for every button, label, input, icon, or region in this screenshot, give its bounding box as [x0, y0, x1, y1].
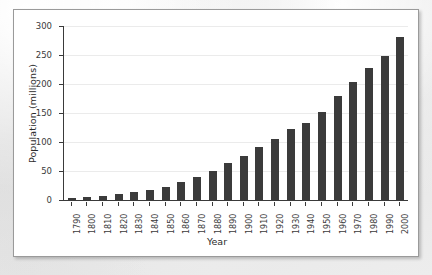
x-tick-label: 1790 — [74, 214, 82, 234]
x-tick-label: 1970 — [355, 214, 363, 234]
bar — [302, 123, 310, 200]
x-tick-mark — [149, 202, 150, 206]
bar — [177, 182, 185, 200]
x-tick-mark — [118, 202, 119, 206]
bar — [224, 163, 232, 200]
y-tick-label: 200 — [6, 80, 52, 89]
y-tick-mark — [59, 171, 64, 172]
x-tick-label: 1810 — [105, 214, 113, 234]
x-axis-ticks: 1790180018101820183018401850186018701880… — [63, 202, 407, 242]
bar — [255, 147, 263, 200]
x-tick-mark — [227, 202, 228, 206]
x-tick-mark — [165, 202, 166, 206]
bar — [68, 198, 76, 200]
gridline — [64, 55, 408, 56]
bar — [146, 190, 154, 200]
chart-figure: Population (millions) Year 0501001502002… — [14, 10, 420, 258]
x-tick-mark — [86, 202, 87, 206]
bar — [99, 196, 107, 200]
x-tick-mark — [399, 202, 400, 206]
y-tick-label: 50 — [6, 167, 52, 176]
x-tick-mark — [180, 202, 181, 206]
y-tick-label: 0 — [6, 196, 52, 205]
x-tick-mark — [133, 202, 134, 206]
y-tick-label: 150 — [6, 109, 52, 118]
y-tick-mark — [59, 142, 64, 143]
plot-area: 050100150200250300 — [63, 26, 408, 201]
y-tick-mark — [59, 26, 64, 27]
x-tick-label: 1800 — [89, 214, 97, 234]
x-tick-mark — [71, 202, 72, 206]
bar — [240, 156, 248, 200]
x-tick-mark — [368, 202, 369, 206]
bar — [365, 68, 373, 200]
x-tick-label: 1850 — [168, 214, 176, 234]
bar — [349, 82, 357, 200]
x-tick-mark — [102, 202, 103, 206]
bar — [162, 187, 170, 200]
x-tick-label: 1920 — [277, 214, 285, 234]
bar — [318, 112, 326, 200]
x-tick-label: 1950 — [324, 214, 332, 234]
x-tick-mark — [243, 202, 244, 206]
x-tick-mark — [196, 202, 197, 206]
chart-card: Population (millions) Year 0501001502002… — [13, 9, 419, 257]
gridline — [64, 26, 408, 27]
x-tick-mark — [305, 202, 306, 206]
x-tick-mark — [384, 202, 385, 206]
x-tick-mark — [352, 202, 353, 206]
bar — [334, 96, 342, 200]
y-tick-mark — [59, 113, 64, 114]
bar — [83, 197, 91, 200]
x-tick-label: 1980 — [371, 214, 379, 234]
bar — [396, 37, 404, 200]
x-tick-label: 1940 — [308, 214, 316, 234]
x-tick-label: 1860 — [183, 214, 191, 234]
x-tick-mark — [321, 202, 322, 206]
x-tick-label: 1960 — [340, 214, 348, 234]
bar — [130, 192, 138, 200]
bar — [193, 177, 201, 200]
x-tick-mark — [290, 202, 291, 206]
x-tick-label: 1890 — [230, 214, 238, 234]
x-tick-mark — [337, 202, 338, 206]
x-tick-label: 1830 — [136, 214, 144, 234]
y-tick-label: 300 — [6, 22, 52, 31]
bar — [271, 139, 279, 200]
x-tick-label: 1870 — [199, 214, 207, 234]
y-tick-mark — [59, 84, 64, 85]
bar — [209, 171, 217, 200]
x-tick-label: 1990 — [387, 214, 395, 234]
y-tick-label: 250 — [6, 51, 52, 60]
y-tick-mark — [59, 55, 64, 56]
bar — [381, 56, 389, 200]
bar — [287, 129, 295, 200]
x-tick-mark — [212, 202, 213, 206]
x-tick-label: 1910 — [261, 214, 269, 234]
x-tick-label: 1840 — [152, 214, 160, 234]
y-tick-label: 100 — [6, 138, 52, 147]
bar — [115, 194, 123, 200]
x-tick-label: 1930 — [293, 214, 301, 234]
y-tick-mark — [59, 200, 64, 201]
x-tick-label: 1900 — [246, 214, 254, 234]
x-tick-label: 2000 — [402, 214, 410, 234]
x-tick-mark — [258, 202, 259, 206]
x-tick-label: 1820 — [121, 214, 129, 234]
x-tick-label: 1880 — [215, 214, 223, 234]
x-tick-mark — [274, 202, 275, 206]
